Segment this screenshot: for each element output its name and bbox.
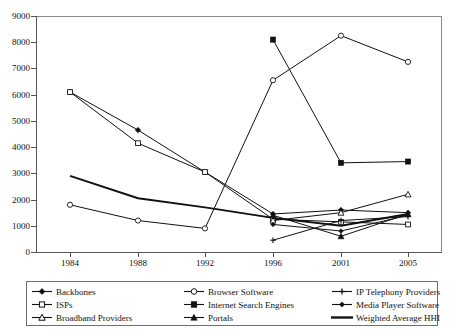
legend-marker-icon bbox=[31, 299, 53, 310]
legend-item: ISPs bbox=[31, 298, 183, 311]
x-axis-tick-label: 1984 bbox=[61, 258, 79, 268]
legend-item: Backbones bbox=[31, 285, 183, 298]
data-point-marker bbox=[202, 226, 207, 231]
x-axis-tick-label: 1988 bbox=[129, 258, 147, 268]
y-axis-tick-label: 6000 bbox=[12, 90, 30, 99]
x-axis-tick bbox=[273, 252, 274, 257]
x-axis-tick bbox=[138, 252, 139, 257]
series-browser-software bbox=[67, 33, 410, 231]
data-point-marker bbox=[339, 229, 344, 234]
series-isps bbox=[68, 90, 411, 227]
legend-item-label: Media Player Software bbox=[356, 300, 439, 310]
legend-marker-icon bbox=[331, 299, 353, 310]
legend-item: Portals bbox=[183, 311, 331, 324]
series-plot bbox=[36, 16, 442, 252]
data-point-marker bbox=[135, 218, 140, 223]
legend-item: Broadband Providers bbox=[31, 311, 183, 324]
series-backbones bbox=[67, 89, 410, 216]
data-point-marker bbox=[338, 160, 343, 165]
x-axis-line bbox=[36, 252, 442, 253]
y-axis-tick-label: 3000 bbox=[12, 169, 30, 178]
data-point-marker bbox=[406, 222, 411, 227]
data-point-marker bbox=[68, 90, 73, 95]
data-point-marker bbox=[405, 159, 410, 164]
x-axis-tick-label: 1992 bbox=[196, 258, 214, 268]
series-weighted-average-hhi bbox=[70, 176, 408, 226]
legend-marker-icon bbox=[331, 286, 353, 297]
legend-item-label: Portals bbox=[208, 313, 233, 323]
data-point-marker bbox=[135, 127, 140, 132]
y-axis-tick-label: 5000 bbox=[12, 116, 30, 125]
x-axis-tick bbox=[70, 252, 71, 257]
legend: BackbonesBrowser SoftwareIP Telephony Pr… bbox=[26, 281, 438, 326]
data-point-marker bbox=[405, 191, 411, 197]
data-point-marker bbox=[203, 170, 208, 175]
series-line bbox=[70, 176, 408, 226]
legend-item-label: ISPs bbox=[56, 300, 73, 310]
legend-item-label: Browser Software bbox=[208, 287, 273, 297]
legend-item-label: Weighted Average HHI bbox=[356, 313, 440, 323]
legend-marker-icon bbox=[31, 312, 53, 323]
legend-marker-icon bbox=[183, 312, 205, 323]
x-axis-tick bbox=[408, 252, 409, 257]
legend-item-label: Internet Search Engines bbox=[208, 300, 294, 310]
legend-item-label: Backbones bbox=[56, 287, 96, 297]
legend-marker-icon bbox=[183, 286, 205, 297]
legend-marker-icon bbox=[31, 286, 53, 297]
y-axis-tick-label: 1000 bbox=[12, 221, 30, 230]
y-axis-tick-label: 7000 bbox=[12, 64, 30, 73]
data-point-marker bbox=[270, 78, 275, 83]
y-axis-tick-label: 2000 bbox=[12, 195, 30, 204]
y-axis-tick-label: 8000 bbox=[12, 38, 30, 47]
data-point-marker bbox=[405, 59, 410, 64]
plot-area: 0100020003000400050006000700080009000 19… bbox=[36, 16, 442, 252]
series-line bbox=[273, 40, 408, 163]
legend-item: Internet Search Engines bbox=[183, 298, 331, 311]
series-line bbox=[70, 92, 408, 224]
legend-item-label: IP Telephony Providers bbox=[356, 287, 440, 297]
y-axis-tick-label: 9000 bbox=[12, 12, 30, 21]
y-axis-tick-label: 0 bbox=[26, 248, 31, 257]
x-axis-tick bbox=[341, 252, 342, 257]
y-axis-tick bbox=[31, 252, 36, 253]
legend-item: Browser Software bbox=[183, 285, 331, 298]
chart-container: 0100020003000400050006000700080009000 19… bbox=[0, 0, 452, 332]
data-point-marker bbox=[338, 33, 343, 38]
x-axis-tick bbox=[205, 252, 206, 257]
data-point-marker bbox=[67, 202, 72, 207]
legend-item: IP Telephony Providers bbox=[331, 285, 440, 298]
x-axis-tick-label: 2005 bbox=[399, 258, 417, 268]
data-point-marker bbox=[270, 237, 276, 243]
legend-marker-icon bbox=[331, 312, 353, 323]
series-internet-search-engines bbox=[270, 37, 410, 165]
legend-item-label: Broadband Providers bbox=[56, 313, 132, 323]
x-axis-tick-label: 2001 bbox=[332, 258, 350, 268]
y-axis-tick-label: 4000 bbox=[12, 143, 30, 152]
series-line bbox=[70, 36, 408, 229]
x-axis-tick-label: 1996 bbox=[264, 258, 282, 268]
legend-item: Media Player Software bbox=[331, 298, 440, 311]
legend-item: Weighted Average HHI bbox=[331, 311, 440, 324]
legend-grid: BackbonesBrowser SoftwareIP Telephony Pr… bbox=[31, 285, 433, 324]
data-point-marker bbox=[270, 37, 275, 42]
data-point-marker bbox=[136, 141, 141, 146]
legend-marker-icon bbox=[183, 299, 205, 310]
